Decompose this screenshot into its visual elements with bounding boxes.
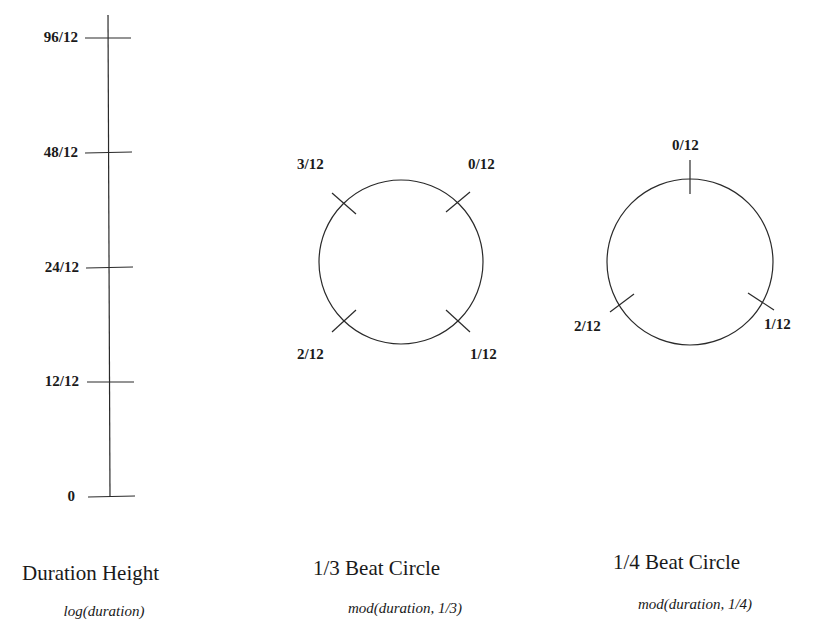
third-label-0-12: 0/12	[468, 156, 495, 173]
tick-1-12	[748, 293, 774, 310]
quarter-beat-formula: mod(duration, 1/4)	[590, 596, 800, 613]
duration-height-title: Duration Height	[22, 561, 202, 586]
third-beat-circle	[319, 180, 483, 344]
duration-axis	[85, 15, 135, 497]
tick-0	[88, 496, 135, 497]
third-label-1-12: 1/12	[470, 346, 497, 363]
tick-48-12	[85, 152, 132, 153]
quarter-label-0-12: 0/12	[672, 137, 699, 154]
tick-0-12	[446, 192, 470, 212]
tick-24-12	[86, 267, 133, 268]
diagram-canvas	[0, 0, 818, 637]
axis-label-48-12: 48/12	[8, 144, 78, 161]
beat-circle-ring	[607, 179, 773, 345]
axis-label-24-12: 24/12	[9, 259, 79, 276]
axis-label-96-12: 96/12	[8, 29, 78, 46]
duration-height-formula: log(duration)	[22, 603, 186, 620]
axis-line	[108, 15, 110, 497]
quarter-label-2-12: 2/12	[574, 318, 601, 335]
axis-label-0: 0	[5, 488, 75, 505]
quarter-beat-title: 1/4 Beat Circle	[605, 550, 803, 575]
quarter-label-1-12: 1/12	[764, 316, 791, 333]
third-beat-title: 1/3 Beat Circle	[305, 556, 503, 581]
beat-circle-ring	[319, 180, 483, 344]
axis-label-12-12: 12/12	[9, 373, 79, 390]
third-label-2-12: 2/12	[297, 346, 324, 363]
third-label-3-12: 3/12	[297, 156, 324, 173]
third-beat-formula: mod(duration, 1/3)	[300, 600, 510, 617]
quarter-beat-circle	[607, 160, 774, 345]
